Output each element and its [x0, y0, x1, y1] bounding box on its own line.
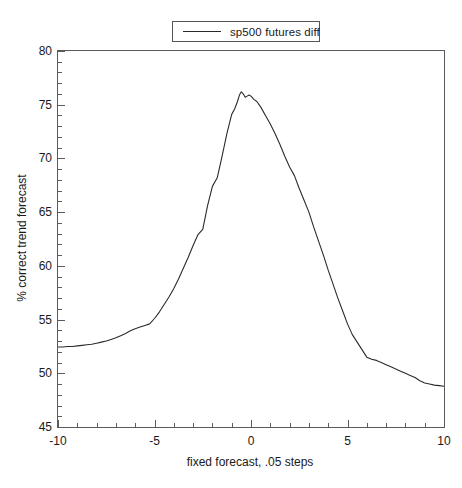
x-axis-tick-minor	[425, 423, 426, 427]
y-axis-tick-minor	[58, 244, 62, 245]
y-axis-tick-minor	[58, 406, 62, 407]
x-axis-tick-label: -5	[149, 434, 160, 448]
x-axis-tick-label: 10	[437, 434, 450, 448]
y-axis-tick-major	[58, 51, 65, 52]
y-axis-tick-label: 45	[39, 420, 52, 434]
x-axis-tick-minor	[328, 423, 329, 427]
x-axis-title: fixed forecast, .05 steps	[57, 455, 443, 469]
x-axis-tick-major	[58, 420, 59, 427]
y-axis-tick-minor	[58, 416, 62, 417]
x-axis-tick-minor	[367, 423, 368, 427]
y-axis-tick-label: 50	[39, 366, 52, 380]
x-axis-tick-major	[251, 420, 252, 427]
y-axis-title-text: % correct trend forecast	[15, 174, 29, 301]
y-axis-tick-label: 55	[39, 313, 52, 327]
y-axis-tick-minor	[58, 94, 62, 95]
y-axis-tick-minor	[58, 384, 62, 385]
legend-entry-label: sp500 futures diff	[230, 26, 320, 38]
x-axis-tick-minor	[386, 423, 387, 427]
chart-page: sp500 futures diff 4550556065707580-10-5…	[0, 0, 462, 488]
y-axis-tick-minor	[58, 83, 62, 84]
x-axis-tick-label: 5	[344, 434, 351, 448]
y-axis-tick-minor	[58, 287, 62, 288]
series-line-sp500-futures-diff	[58, 92, 444, 386]
y-axis-tick-minor	[58, 137, 62, 138]
x-axis-tick-minor	[135, 423, 136, 427]
y-axis-tick-minor	[58, 298, 62, 299]
y-axis-tick-minor	[58, 180, 62, 181]
y-axis-tick-minor	[58, 395, 62, 396]
y-axis-tick-major	[58, 373, 65, 374]
y-axis-tick-minor	[58, 126, 62, 127]
y-axis-tick-minor	[58, 363, 62, 364]
chart-canvas	[58, 51, 444, 427]
y-axis-tick-major	[58, 212, 65, 213]
y-axis-tick-major	[58, 158, 65, 159]
y-axis-tick-major	[58, 427, 65, 428]
x-axis-tick-minor	[405, 423, 406, 427]
y-axis-tick-label: 60	[39, 259, 52, 273]
x-axis-tick-label: -10	[49, 434, 66, 448]
x-axis-tick-minor	[193, 423, 194, 427]
chart-legend: sp500 futures diff	[172, 21, 320, 42]
y-axis-tick-minor	[58, 148, 62, 149]
x-axis-tick-minor	[309, 423, 310, 427]
plot-area: 4550556065707580-10-50510	[57, 50, 445, 428]
y-axis-tick-major	[58, 266, 65, 267]
x-axis-tick-minor	[232, 423, 233, 427]
y-axis-tick-minor	[58, 277, 62, 278]
x-axis-tick-minor	[212, 423, 213, 427]
y-axis-tick-minor	[58, 330, 62, 331]
y-axis-tick-label: 75	[39, 98, 52, 112]
x-axis-tick-major	[155, 420, 156, 427]
y-axis-tick-minor	[58, 191, 62, 192]
y-axis-tick-minor	[58, 341, 62, 342]
y-axis-tick-minor	[58, 352, 62, 353]
legend-line-swatch-icon	[183, 31, 221, 32]
y-axis-tick-minor	[58, 72, 62, 73]
y-axis-tick-major	[58, 105, 65, 106]
x-axis-tick-minor	[174, 423, 175, 427]
y-axis-title: % correct trend forecast	[14, 50, 30, 426]
x-axis-tick-minor	[270, 423, 271, 427]
y-axis-tick-label: 80	[39, 44, 52, 58]
x-axis-tick-major	[444, 420, 445, 427]
x-axis-tick-major	[348, 420, 349, 427]
y-axis-tick-minor	[58, 169, 62, 170]
y-axis-tick-minor	[58, 234, 62, 235]
x-axis-tick-label: 0	[248, 434, 255, 448]
x-axis-tick-minor	[77, 423, 78, 427]
y-axis-tick-minor	[58, 115, 62, 116]
y-axis-tick-minor	[58, 255, 62, 256]
y-axis-tick-minor	[58, 201, 62, 202]
y-axis-tick-label: 70	[39, 151, 52, 165]
x-axis-tick-minor	[116, 423, 117, 427]
x-axis-tick-minor	[290, 423, 291, 427]
y-axis-tick-minor	[58, 223, 62, 224]
x-axis-tick-minor	[97, 423, 98, 427]
y-axis-tick-label: 65	[39, 205, 52, 219]
y-axis-tick-minor	[58, 309, 62, 310]
y-axis-tick-major	[58, 320, 65, 321]
y-axis-tick-minor	[58, 62, 62, 63]
